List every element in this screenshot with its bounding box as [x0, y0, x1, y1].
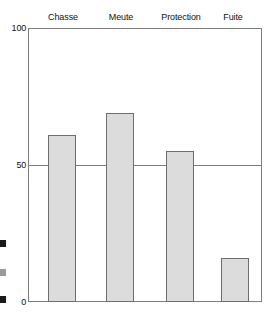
- category-label-chasse: Chasse: [33, 12, 93, 22]
- chart-screenshot: 100 50 0 Chasse Meute Protection Fuite: [0, 0, 274, 315]
- bar-fuite: [221, 258, 249, 302]
- category-label-meute: Meute: [91, 12, 151, 22]
- category-label-protection: Protection: [146, 12, 216, 22]
- edge-marker-middle: [0, 269, 6, 276]
- edge-marker-top: [0, 240, 6, 247]
- y-tick-label-50: 50: [0, 161, 26, 170]
- bar-protection: [166, 151, 194, 302]
- y-tick-label-100: 100: [0, 24, 26, 33]
- bar-meute: [106, 113, 134, 302]
- bar-chasse: [48, 135, 76, 302]
- category-label-fuite: Fuite: [208, 12, 258, 22]
- y-tick-label-0: 0: [0, 298, 26, 307]
